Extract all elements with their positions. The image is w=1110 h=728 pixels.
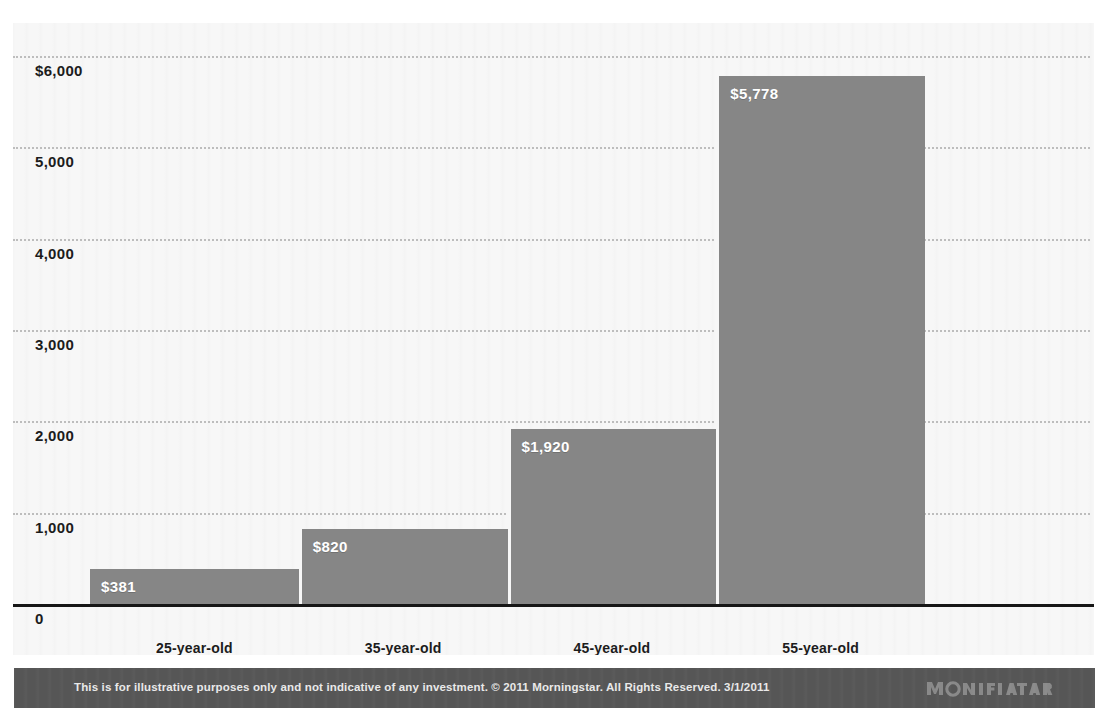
x-axis-tick-label: 45-year-old — [508, 640, 717, 655]
bar-value-label: $820 — [313, 538, 348, 555]
x-axis-line — [13, 604, 1094, 607]
x-axis-tick-label: 55-year-old — [716, 640, 925, 655]
bar-value-label: $381 — [101, 578, 136, 595]
chart-plot-area: 01,0002,0003,0004,0005,000$6,000 $381$82… — [13, 23, 1094, 655]
x-axis-tick-label: 25-year-old — [90, 640, 299, 655]
logo-text: MORNINGSTAR — [925, 698, 926, 699]
bar-value-label: $5,778 — [730, 85, 778, 102]
bar: $5,778 — [716, 76, 925, 604]
bar-series: $381$820$1,920$5,778 — [13, 23, 1094, 655]
x-axis-tick-label: 35-year-old — [299, 640, 508, 655]
disclaimer-text: This is for illustrative purposes only a… — [74, 681, 769, 693]
chart-page: 01,0002,0003,0004,0005,000$6,000 $381$82… — [0, 0, 1110, 728]
bar: $820 — [299, 529, 508, 604]
morningstar-logo-icon: MORNINGSTAR — [925, 679, 1057, 698]
bar: $1,920 — [508, 429, 717, 604]
footer-disclaimer-band: This is for illustrative purposes only a… — [14, 668, 1095, 708]
bar-value-label: $1,920 — [522, 438, 570, 455]
bar: $381 — [90, 569, 299, 604]
